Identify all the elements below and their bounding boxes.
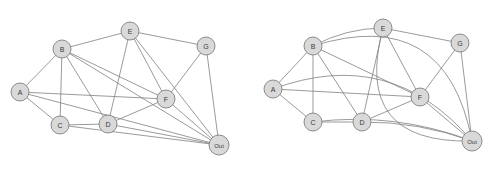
graph-node-g[interactable]: G xyxy=(451,34,469,52)
graph-edge xyxy=(62,31,130,49)
graph-edge xyxy=(273,89,420,97)
graph-node-f[interactable]: F xyxy=(157,90,175,108)
graph-node-g[interactable]: G xyxy=(197,37,215,55)
graph-edge xyxy=(420,43,460,97)
right-panel-edges xyxy=(273,28,472,141)
graph-node-c[interactable]: C xyxy=(51,116,69,134)
graph-node-out[interactable]: Out xyxy=(462,131,482,151)
graph-edge xyxy=(362,97,420,122)
node-circle[interactable] xyxy=(451,34,469,52)
graph-edge xyxy=(206,46,219,145)
graph-edge xyxy=(108,31,130,124)
node-circle[interactable] xyxy=(304,37,322,55)
graph-edge xyxy=(60,125,219,145)
node-circle[interactable] xyxy=(99,115,117,133)
node-circle[interactable] xyxy=(121,22,139,40)
graph-node-a[interactable]: A xyxy=(264,80,282,98)
graph-node-a[interactable]: A xyxy=(11,83,29,101)
graph-edge xyxy=(20,92,219,145)
graph-edge xyxy=(62,49,219,145)
node-circle[interactable] xyxy=(374,19,392,37)
graph-edge xyxy=(313,119,472,141)
graph-edge xyxy=(460,43,472,141)
graph-node-b[interactable]: B xyxy=(53,40,71,58)
node-circle[interactable] xyxy=(411,88,429,106)
node-circle[interactable] xyxy=(197,37,215,55)
graph-edge xyxy=(60,49,62,125)
graph-edge xyxy=(313,36,472,141)
diagram-canvas: ABCDEFGOut ABCDEFGOut xyxy=(0,0,496,182)
left-panel-edges xyxy=(20,31,219,145)
graph-node-d[interactable]: D xyxy=(99,115,117,133)
graph-node-out[interactable]: Out xyxy=(209,135,229,155)
node-circle[interactable] xyxy=(462,131,482,151)
node-circle[interactable] xyxy=(264,80,282,98)
node-circle[interactable] xyxy=(53,40,71,58)
node-circle[interactable] xyxy=(353,113,371,131)
graph-edge xyxy=(130,31,206,46)
node-circle[interactable] xyxy=(51,116,69,134)
graph-edge xyxy=(383,28,460,43)
graph-node-e[interactable]: E xyxy=(121,22,139,40)
graph-node-d[interactable]: D xyxy=(353,113,371,131)
node-circle[interactable] xyxy=(11,83,29,101)
node-circle[interactable] xyxy=(304,113,322,131)
graph-edge xyxy=(166,46,206,99)
node-circle[interactable] xyxy=(157,90,175,108)
graph-edge xyxy=(108,99,166,124)
node-circle[interactable] xyxy=(209,135,229,155)
right-panel-nodes: ABCDEFGOut xyxy=(264,19,482,151)
graph-edge xyxy=(130,31,166,99)
graph-node-f[interactable]: F xyxy=(411,88,429,106)
left-panel-nodes: ABCDEFGOut xyxy=(11,22,229,155)
graph-node-b[interactable]: B xyxy=(304,37,322,55)
graph-diagram-svg: ABCDEFGOut ABCDEFGOut xyxy=(0,0,496,182)
graph-node-c[interactable]: C xyxy=(304,113,322,131)
graph-node-e[interactable]: E xyxy=(374,19,392,37)
